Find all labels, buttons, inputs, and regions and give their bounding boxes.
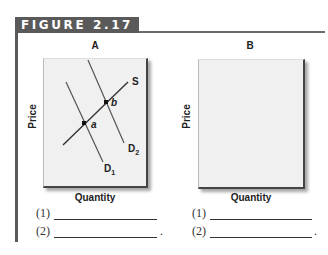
panel-b-answer-2-field[interactable]	[210, 237, 312, 238]
panel-a-answer-1-label: (1)	[36, 206, 50, 221]
panel-a-answer-2-label: (2)	[36, 224, 50, 239]
panel-a-s-label: S	[132, 76, 139, 87]
panel-a-answer-1-field[interactable]	[54, 219, 157, 220]
panel-a-answer-2-period: .	[160, 224, 163, 239]
panel-a-d1-label: D1	[104, 163, 115, 176]
panel-b-answer-1-field[interactable]	[210, 219, 312, 220]
panel-b-label: B	[195, 40, 305, 51]
panel-b-x-axis-label: Quantity	[198, 192, 304, 203]
panel-a-point-a-label: a	[91, 119, 97, 130]
panel-b-answer-2-period: .	[314, 224, 317, 239]
panel-b-answer-2-label: (2)	[192, 224, 206, 239]
panel-a-point-b	[104, 100, 108, 104]
panel-a-point-a	[82, 121, 86, 125]
panel-a-d2-label: D2	[128, 143, 139, 156]
panel-b-y-axis-label: Price	[181, 97, 192, 137]
panel-b-graph-area	[198, 59, 305, 189]
panel-a-point-b-label: b	[111, 97, 117, 108]
panel-a-answer-2-field[interactable]	[54, 237, 157, 238]
panel-a-supply-s	[63, 82, 128, 145]
panel-b-answer-1-label: (1)	[192, 206, 206, 221]
